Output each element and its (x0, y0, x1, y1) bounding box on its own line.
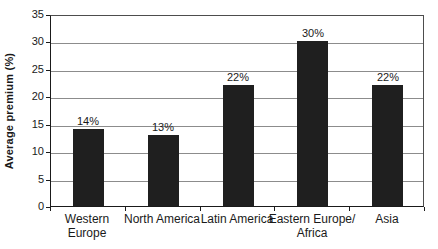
x-category-label: Eastern Europe/Africa (269, 212, 356, 240)
y-tick-label: 30 (14, 35, 44, 47)
y-tick-mark (46, 125, 50, 126)
bar-value-label: 14% (77, 115, 99, 127)
bar-value-label: 30% (302, 27, 324, 39)
x-tick-mark (274, 207, 275, 211)
plot-area: 14%13%22%30%22% (50, 15, 424, 207)
y-tick-label: 20 (14, 90, 44, 102)
bar-asia (372, 85, 403, 206)
x-category-label: Latin America (201, 212, 274, 226)
y-tick-label: 5 (14, 173, 44, 185)
bar-value-label: 13% (152, 121, 174, 133)
bar-value-label: 22% (377, 71, 399, 83)
y-tick-label: 10 (14, 145, 44, 157)
y-tick-label: 0 (14, 200, 44, 212)
y-tick-label: 15 (14, 118, 44, 130)
bar-value-label: 22% (227, 71, 249, 83)
y-axis-title: Average premium (%) (3, 31, 17, 191)
bar-eastern-europe-africa (297, 41, 328, 206)
x-category-label: North America (124, 212, 200, 226)
x-tick-mark (200, 207, 201, 211)
x-tick-mark (50, 207, 51, 211)
y-tick-mark (46, 152, 50, 153)
gridline (51, 43, 423, 44)
bar-north-america (148, 135, 179, 206)
x-category-label: WesternEurope (65, 212, 109, 240)
y-tick-mark (46, 97, 50, 98)
y-tick-mark (46, 70, 50, 71)
y-tick-label: 35 (14, 8, 44, 20)
y-tick-mark (46, 42, 50, 43)
x-tick-mark (424, 207, 425, 211)
bar-latin-america (223, 85, 254, 206)
bar-chart: Average premium (%) 14%13%22%30%22% 0510… (0, 0, 438, 249)
x-tick-mark (349, 207, 350, 211)
x-tick-mark (125, 207, 126, 211)
y-tick-mark (46, 180, 50, 181)
y-tick-mark (46, 15, 50, 16)
y-tick-label: 25 (14, 63, 44, 75)
bar-western-europe (73, 129, 104, 206)
x-category-label: Asia (375, 212, 398, 226)
